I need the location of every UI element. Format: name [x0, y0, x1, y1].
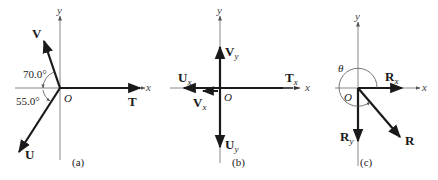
panel-a-origin-label: O [64, 93, 72, 104]
vector-V [44, 41, 60, 88]
panel-c-theta-label: θ [338, 63, 343, 74]
panel-b-vector-Uy-label: Uy [225, 138, 238, 154]
panel-b-y-axis-label: y [217, 5, 222, 16]
panel-a-vector-T-label: T [128, 95, 137, 108]
panel-b-x-axis-label: x [305, 82, 310, 93]
panel-b-vector-Vx-label: Vx [193, 96, 206, 112]
panel-c-vector-R-label: R [405, 134, 414, 147]
panel-a-angle-70-label: 70.0° [23, 69, 47, 80]
panel-c-y-axis-label: y [355, 11, 360, 22]
panel-c-caption: (c) [360, 157, 372, 168]
panel-a-vector-V-label: V [32, 27, 41, 40]
panel-b-caption: (b) [232, 157, 245, 168]
panel-b-vector-Tx-label: Tx [285, 71, 298, 87]
panel-c-vector-Ry-label: Ry [340, 130, 353, 146]
panel-c-origin-label: O [344, 92, 352, 103]
panel-c-vector-Rx-label: Rx [385, 70, 398, 86]
vector-R [358, 88, 400, 137]
panel-a-x-axis-label: x [146, 82, 151, 93]
panel-a-y-axis-label: y [57, 5, 62, 16]
angle-arc-55 [43, 90, 50, 101]
panel-c-x-axis-label: x [422, 82, 427, 93]
panel-a-angle-55-label: 55.0° [16, 96, 40, 107]
panel-a-vector-U-label: U [25, 148, 34, 161]
panel-a-caption: (a) [72, 157, 84, 168]
panel-b-origin-label: O [224, 92, 232, 103]
vector-diagram-canvas [0, 0, 438, 180]
panel-b-vector-Vy-label: Vy [225, 45, 238, 61]
panel-b-vector-Ux-label: Ux [178, 71, 191, 87]
